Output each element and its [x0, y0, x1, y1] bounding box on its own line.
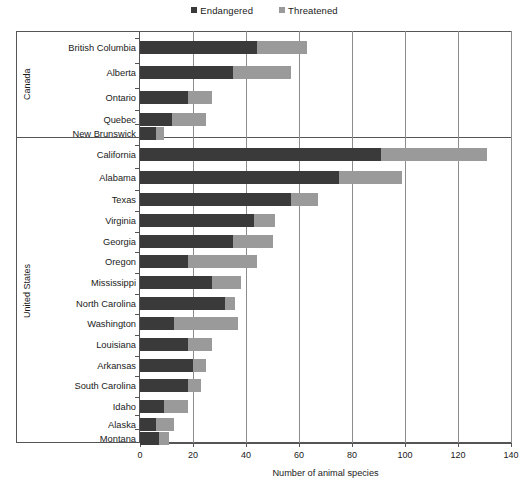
category-tick-mark [135, 124, 139, 125]
category-tick-mark [135, 190, 139, 191]
category-tick-mark [135, 294, 139, 295]
bar-track [140, 338, 511, 351]
bar-segment-threatened[interactable] [339, 171, 403, 184]
bar-segment-threatened[interactable] [381, 148, 487, 161]
tick-mark-140 [511, 443, 512, 447]
bar-row: North Carolina [40, 294, 511, 315]
bar-track [140, 359, 511, 372]
gridline-140 [511, 31, 512, 443]
bar-row: Louisiana [40, 335, 511, 356]
bar-segment-endangered[interactable] [140, 297, 225, 310]
bar-segment-threatened[interactable] [188, 379, 201, 392]
bar-track [140, 297, 511, 310]
bar-row: Montana [40, 429, 511, 450]
bar-segment-endangered[interactable] [140, 235, 233, 248]
bar-segment-endangered[interactable] [140, 255, 188, 268]
bar-segment-threatened[interactable] [212, 276, 241, 289]
bar-segment-threatened[interactable] [156, 127, 164, 140]
chart-footnote [8, 492, 348, 500]
bar-segment-threatened[interactable] [159, 432, 170, 445]
x-tick-label: 120 [443, 450, 473, 460]
bar-segment-endangered[interactable] [140, 379, 188, 392]
bar-segment-endangered[interactable] [140, 66, 233, 79]
bar-track [140, 214, 511, 227]
bar-segment-threatened[interactable] [233, 66, 291, 79]
bar-segment-endangered[interactable] [140, 214, 254, 227]
category-tick-mark [135, 429, 139, 430]
bar-row: Texas [40, 190, 511, 211]
category-tick-mark [135, 168, 139, 169]
bar-track [140, 400, 511, 413]
category-label-british-columbia: British Columbia [40, 38, 136, 59]
category-label-divider [16, 31, 17, 443]
bar-row: Alberta [40, 63, 511, 84]
category-tick-mark [135, 252, 139, 253]
bar-track [140, 317, 511, 330]
category-label-south-carolina: South Carolina [40, 376, 136, 397]
bar-segment-endangered[interactable] [140, 317, 174, 330]
category-label-montana: Montana [40, 429, 136, 450]
bar-segment-endangered[interactable] [140, 127, 156, 140]
bar-segment-endangered[interactable] [140, 171, 339, 184]
x-tick-label: 80 [337, 450, 367, 460]
category-tick-mark [135, 356, 139, 357]
bar-track [140, 41, 511, 54]
category-tick-mark [135, 88, 139, 89]
category-label-georgia: Georgia [40, 232, 136, 253]
category-label-north-carolina: North Carolina [40, 294, 136, 315]
bar-row: New Brunswick [40, 124, 511, 145]
bar-segment-threatened[interactable] [193, 359, 206, 372]
bar-row: Mississippi [40, 273, 511, 294]
bar-row: British Columbia [40, 38, 511, 59]
category-label-mississippi: Mississippi [40, 273, 136, 294]
bar-row: Washington [40, 314, 511, 335]
bar-segment-endangered[interactable] [140, 41, 257, 54]
category-label-texas: Texas [40, 190, 136, 211]
bar-row: California [40, 145, 511, 166]
category-tick-mark [135, 38, 139, 39]
bar-segment-threatened[interactable] [174, 317, 238, 330]
x-tick-label: 40 [231, 450, 261, 460]
x-tick-label: 140 [496, 450, 526, 460]
bar-segment-endangered[interactable] [140, 148, 381, 161]
bar-row: Arkansas [40, 356, 511, 377]
bar-track [140, 91, 511, 104]
x-tick-label: 60 [284, 450, 314, 460]
bar-segment-endangered[interactable] [140, 359, 193, 372]
bar-segment-threatened[interactable] [233, 235, 273, 248]
chart-plot-area: 020406080100120140 Canada United States … [0, 0, 529, 500]
bar-track [140, 193, 511, 206]
bar-segment-threatened[interactable] [188, 255, 257, 268]
bar-track [140, 66, 511, 79]
bar-segment-endangered[interactable] [140, 193, 291, 206]
category-label-ontario: Ontario [40, 88, 136, 109]
bar-segment-endangered[interactable] [140, 338, 188, 351]
category-label-virginia: Virginia [40, 211, 136, 232]
category-tick-mark [135, 376, 139, 377]
bar-track [140, 171, 511, 184]
bar-row: Alabama [40, 168, 511, 189]
category-tick-mark [135, 232, 139, 233]
bar-segment-threatened[interactable] [225, 297, 236, 310]
bar-segment-threatened[interactable] [188, 91, 212, 104]
bar-segment-threatened[interactable] [257, 41, 307, 54]
category-tick-mark [135, 397, 139, 398]
category-label-new-brunswick: New Brunswick [40, 124, 136, 145]
bar-track [140, 127, 511, 140]
bar-track [140, 432, 511, 445]
category-tick-mark [135, 335, 139, 336]
category-tick-mark [135, 63, 139, 64]
bar-segment-threatened[interactable] [188, 338, 212, 351]
bar-segment-endangered[interactable] [140, 432, 159, 445]
category-label-arkansas: Arkansas [40, 356, 136, 377]
bar-segment-threatened[interactable] [291, 193, 318, 206]
bar-segment-threatened[interactable] [254, 214, 275, 227]
bar-segment-endangered[interactable] [140, 276, 212, 289]
bar-segment-threatened[interactable] [164, 400, 188, 413]
bar-segment-endangered[interactable] [140, 91, 188, 104]
bar-track [140, 148, 511, 161]
x-tick-label: 20 [178, 450, 208, 460]
bar-segment-endangered[interactable] [140, 400, 164, 413]
x-axis-title: Number of animal species [140, 468, 511, 478]
bar-track [140, 255, 511, 268]
